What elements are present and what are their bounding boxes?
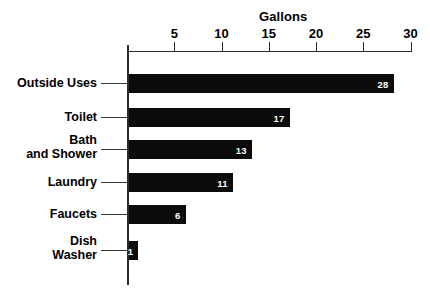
bar-row: Toilet17	[0, 108, 430, 127]
bar-row: DishWasher1	[0, 241, 430, 260]
bar: 6	[129, 205, 186, 224]
tick-label: 30	[396, 26, 426, 41]
tick-label: 10	[207, 26, 237, 41]
category-label-line: Bath	[0, 133, 97, 147]
bar-value-label: 1	[128, 245, 134, 256]
bar-row: Faucets6	[0, 205, 430, 224]
leader-line	[101, 83, 127, 84]
leader-line	[101, 117, 127, 118]
category-label: Faucets	[0, 207, 97, 221]
category-label-line: Washer	[0, 248, 97, 262]
leader-line	[101, 250, 127, 251]
leader-line	[101, 149, 127, 150]
category-label: Outside Uses	[0, 76, 97, 90]
category-label: Toilet	[0, 110, 97, 124]
bar-row: Laundry11	[0, 173, 430, 192]
bar: 13	[129, 140, 252, 159]
category-label: Laundry	[0, 175, 97, 189]
bar-chart: Gallons 51015202530 Outside Uses28Toilet…	[0, 0, 430, 296]
bar-value-label: 17	[273, 112, 284, 123]
category-label: Bathand Shower	[0, 133, 97, 161]
category-label: DishWasher	[0, 234, 97, 262]
bar-value-label: 6	[175, 209, 181, 220]
bar: 1	[129, 241, 138, 260]
category-label-line: Dish	[0, 234, 97, 248]
tick-label: 25	[348, 26, 378, 41]
bar: 28	[129, 74, 394, 93]
leader-line	[101, 214, 127, 215]
tick-label: 15	[254, 26, 284, 41]
tick-label: 20	[301, 26, 331, 41]
x-axis-line	[127, 51, 412, 52]
leader-line	[101, 182, 127, 183]
axis-title: Gallons	[259, 9, 307, 24]
tick-label: 5	[159, 26, 189, 41]
category-label-line: and Shower	[0, 147, 97, 161]
bar-row: Outside Uses28	[0, 74, 430, 93]
bar-row: Bathand Shower13	[0, 140, 430, 159]
bar-value-label: 13	[236, 144, 247, 155]
bar-value-label: 11	[217, 177, 228, 188]
bar-value-label: 28	[377, 78, 388, 89]
bar: 11	[129, 173, 233, 192]
bar: 17	[129, 108, 290, 127]
